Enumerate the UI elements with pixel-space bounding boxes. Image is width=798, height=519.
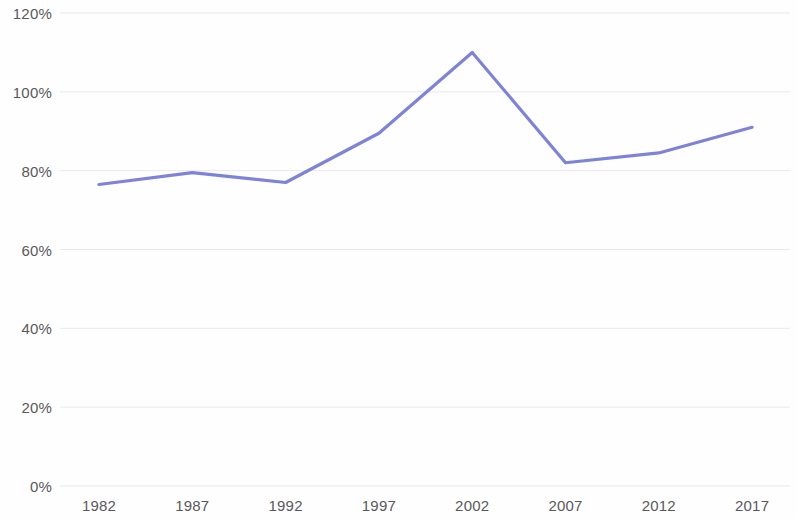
x-tick-label: 2002 (455, 497, 489, 514)
gridlines (60, 13, 790, 486)
y-tick-label: 0% (30, 478, 52, 495)
x-tick-label: 1987 (175, 497, 209, 514)
x-tick-label: 1997 (362, 497, 396, 514)
line-chart: 0%20%40%60%80%100%120% 19821987199219972… (0, 0, 798, 519)
x-tick-label: 1982 (82, 497, 116, 514)
y-tick-label: 60% (21, 241, 52, 258)
y-tick-label: 120% (13, 5, 52, 22)
y-tick-label: 100% (13, 83, 52, 100)
y-tick-label: 40% (21, 320, 52, 337)
x-tick-label: 2012 (642, 497, 676, 514)
x-tick-label: 2017 (735, 497, 769, 514)
series-group (99, 52, 752, 184)
y-tick-label: 20% (21, 399, 52, 416)
x-tick-label: 1992 (269, 497, 303, 514)
chart-plot-area (0, 0, 798, 519)
series-line-0 (99, 52, 752, 184)
x-tick-label: 2007 (548, 497, 582, 514)
y-tick-label: 80% (21, 162, 52, 179)
